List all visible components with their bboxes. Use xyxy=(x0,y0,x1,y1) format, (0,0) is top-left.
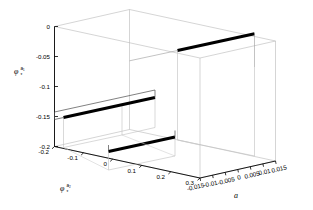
branch-ridge-middle xyxy=(64,98,156,118)
branch-sheet-middle xyxy=(55,90,156,148)
z-axis-label-sub: * xyxy=(21,73,23,78)
z-tick-2: -0.1 xyxy=(39,83,50,90)
y-axis-ticks xyxy=(52,147,200,181)
z-axis-label: φ * a₁ xyxy=(14,66,25,79)
z-tick-3: -0.15 xyxy=(36,113,51,120)
figure-3d-step-surface: 0 -0.05 -0.1 -0.15 -0.2 φ * a₁ -0.2 -0.1… xyxy=(0,0,313,210)
y-tick-1: -0.1 xyxy=(67,154,78,161)
y-axis-label-phi: φ xyxy=(60,184,65,193)
branch-ridge-lower xyxy=(109,137,176,152)
y-axis-label: φ * a₂ xyxy=(60,183,71,196)
branch-ridge-upper xyxy=(178,34,255,51)
y-tick-0: -0.2 xyxy=(38,148,49,155)
z-axis-label-phi: φ xyxy=(14,67,19,76)
x-tick-2: -0.005 xyxy=(217,175,236,186)
axes-box xyxy=(55,10,276,179)
y-tick-2: 0 xyxy=(104,160,108,167)
z-axis-ticks xyxy=(55,27,59,147)
x-tick-5: 0.01 xyxy=(258,167,272,177)
y-tick-4: 0.2 xyxy=(156,173,165,180)
z-tick-0: 0 xyxy=(47,23,51,30)
plot-canvas: 0 -0.05 -0.1 -0.15 -0.2 φ * a₁ -0.2 -0.1… xyxy=(0,0,313,210)
y-axis-label-sub: * xyxy=(67,190,69,195)
x-axis-label: a xyxy=(234,191,238,200)
z-tick-1: -0.05 xyxy=(36,53,51,60)
y-tick-3: 0.1 xyxy=(127,167,136,174)
y-axis-label-sup: a₂ xyxy=(67,183,72,188)
branch-sheet-lower xyxy=(109,131,176,171)
branch-sheet-upper xyxy=(130,34,255,156)
x-tick-6: 0.015 xyxy=(271,163,288,173)
x-tick-3: 0 xyxy=(236,173,241,181)
axis-lines xyxy=(55,27,276,179)
z-axis-label-sup: a₁ xyxy=(21,66,26,71)
